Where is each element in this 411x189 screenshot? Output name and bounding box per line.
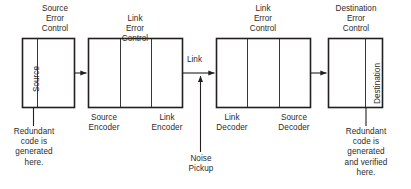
block-link-error-control-transmit-shape: [89, 39, 183, 108]
block-title-destination-error-control: Destination Error Control: [318, 4, 394, 35]
caption-right-redundant-code: Redundant code is generated and verified…: [332, 127, 400, 178]
edge-label-link: Link: [187, 55, 202, 65]
block-link-error-control-receive-shape: [217, 39, 311, 108]
block-title-link-error-control-transmit: Link Error Control: [104, 14, 166, 45]
section-label-link-decoder: Link Decoder: [204, 113, 260, 133]
section-label-source-decoder: Source Decoder: [266, 113, 322, 133]
block-title-source-error-control: Source Error Control: [24, 4, 86, 35]
caption-left-redundant-code: Redundant code is generated here.: [3, 127, 65, 168]
block-diagram: Source Error Control Link Error Control …: [0, 0, 411, 189]
block-vertical-label-source: Source: [32, 66, 41, 92]
section-label-source-encoder: Source Encoder: [76, 113, 132, 133]
block-source-error-control-shape: [23, 39, 75, 108]
section-label-link-encoder: Link Encoder: [139, 113, 195, 133]
block-title-link-error-control-receive: Link Error Control: [232, 4, 294, 35]
edge-label-noise-pickup: Noise Pickup: [173, 154, 229, 174]
block-vertical-label-destination: Destination: [373, 63, 382, 104]
